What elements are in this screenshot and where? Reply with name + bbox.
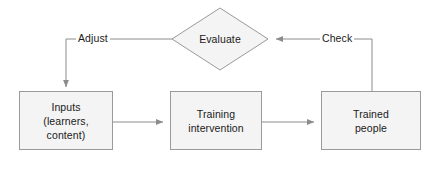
edge-label-check: Check bbox=[320, 32, 354, 44]
node-training-intervention: Training intervention bbox=[170, 91, 262, 150]
edge-adjust-line bbox=[66, 39, 172, 87]
node-trained-people-label: Trained people bbox=[353, 107, 389, 135]
node-trained-people: Trained people bbox=[321, 91, 421, 150]
node-inputs: Inputs (learners, content) bbox=[19, 91, 113, 150]
node-training-intervention-label: Training intervention bbox=[188, 107, 243, 135]
node-inputs-label: Inputs (learners, content) bbox=[43, 100, 88, 142]
edge-check-line bbox=[276, 39, 372, 91]
evaluate-diamond-shape bbox=[172, 8, 268, 70]
flowchart-diagram: Evaluate Inputs (learners, content) Trai… bbox=[0, 0, 435, 170]
edge-label-adjust: Adjust bbox=[76, 32, 110, 44]
